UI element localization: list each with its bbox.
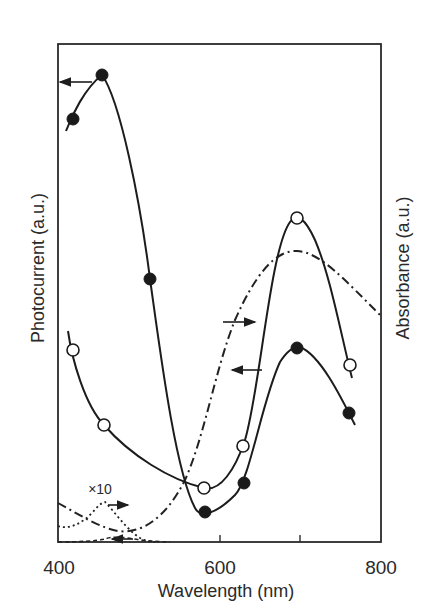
x-tick-400: 400 — [43, 557, 75, 578]
x-axis-title: Wavelength (nm) — [158, 581, 294, 601]
y-axis-left-title: Photocurrent (a.u.) — [28, 193, 48, 343]
y-axis-right-title: Absorbance (a.u.) — [393, 196, 413, 339]
x-tick-800: 800 — [365, 557, 397, 578]
open-markers — [67, 212, 356, 494]
photocurrent-filled-curve — [66, 75, 355, 514]
chart: 400 600 800 Wavelength (nm) Photocurrent… — [0, 0, 432, 612]
x-tick-600: 600 — [204, 557, 236, 578]
filled-markers — [67, 69, 355, 518]
absorbance-x10-curve — [58, 502, 155, 542]
times-ten-annotation: ×10 — [88, 481, 112, 497]
x-ticks — [220, 535, 300, 542]
